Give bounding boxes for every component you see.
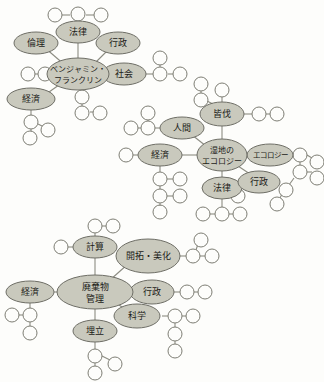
node-development-waste[interactable]: 開拓・美化 <box>116 239 180 273</box>
node-ellipse[interactable] <box>116 239 180 273</box>
node-science-waste[interactable]: 科学 <box>114 304 160 328</box>
leaf-circle[interactable] <box>23 131 37 145</box>
node-ellipse[interactable] <box>73 320 117 342</box>
node-ellipse[interactable] <box>200 102 244 126</box>
leaf-circle[interactable] <box>75 106 89 120</box>
leaf-circle[interactable] <box>173 67 187 81</box>
node-ellipse[interactable] <box>160 117 204 139</box>
leaf-circle[interactable] <box>71 7 85 21</box>
leaf-circle[interactable] <box>141 106 155 120</box>
leaf-circle[interactable] <box>93 106 107 120</box>
node-ellipse[interactable] <box>238 171 280 193</box>
leaf-circle[interactable] <box>153 189 167 203</box>
leaf-circle[interactable] <box>119 148 133 162</box>
leaf-circle[interactable] <box>270 197 284 211</box>
leaf-circle[interactable] <box>215 83 229 97</box>
node-ethics-franklin[interactable]: 倫理 <box>14 32 58 54</box>
leaf-circle[interactable] <box>94 8 108 22</box>
node-ellipse[interactable] <box>130 280 174 304</box>
leaf-circle[interactable] <box>194 93 208 107</box>
node-economy-wetland[interactable]: 経済 <box>138 144 182 166</box>
node-law-wetland[interactable]: 法律 <box>202 177 242 199</box>
leaf-circle[interactable] <box>153 67 167 81</box>
leaf-circle[interactable] <box>173 189 187 203</box>
node-center-benjamin-franklin[interactable]: ベンジャミン・ フランクリン <box>47 58 109 90</box>
leaf-circle[interactable] <box>310 155 324 169</box>
leaf-circle[interactable] <box>5 308 19 322</box>
node-ellipse[interactable] <box>247 144 293 166</box>
leaf-circle[interactable] <box>153 51 167 65</box>
leaf-circle[interactable] <box>186 249 200 263</box>
node-law-franklin[interactable]: 法律 <box>56 21 100 43</box>
leaf-circle[interactable] <box>23 308 37 322</box>
leaf-circle[interactable] <box>108 357 122 371</box>
leaf-circle[interactable] <box>198 285 212 299</box>
leaf-circle[interactable] <box>173 172 187 186</box>
node-center-wetland-ecology[interactable]: 湿地の エコロジー <box>197 139 247 171</box>
node-ellipse[interactable] <box>47 58 109 90</box>
leaf-circle[interactable] <box>88 366 102 380</box>
leaf-circle[interactable] <box>252 107 266 121</box>
branch-administration-waste <box>174 285 212 299</box>
leaf-circle[interactable] <box>141 121 155 135</box>
leaf-circle[interactable] <box>194 233 208 247</box>
node-landfill-waste[interactable]: 埋立 <box>73 320 117 342</box>
leaf-circle[interactable] <box>106 219 120 233</box>
leaf-circle[interactable] <box>270 107 284 121</box>
leaf-circle[interactable] <box>233 207 247 221</box>
node-ellipse[interactable] <box>7 88 55 110</box>
node-ellipse[interactable] <box>138 144 182 166</box>
node-ellipse[interactable] <box>202 177 242 199</box>
leaf-circle[interactable] <box>168 309 182 323</box>
leaf-circle[interactable] <box>194 77 208 91</box>
node-ellipse[interactable] <box>73 236 117 258</box>
leaf-circle[interactable] <box>124 121 138 135</box>
branch-human-wetland <box>124 106 160 135</box>
leaf-circle[interactable] <box>75 90 89 104</box>
leaf-circle[interactable] <box>180 285 194 299</box>
leaf-circle[interactable] <box>48 8 62 22</box>
node-calculation-waste[interactable]: 計算 <box>73 236 117 258</box>
node-economy-waste[interactable]: 経済 <box>6 281 54 303</box>
leaf-circle[interactable] <box>24 115 38 129</box>
leaf-circle[interactable] <box>41 123 55 137</box>
leaf-circle[interactable] <box>293 165 307 179</box>
node-ellipse[interactable] <box>197 139 247 171</box>
node-ellipse[interactable] <box>56 21 100 43</box>
node-economy-franklin[interactable]: 経済 <box>7 88 55 110</box>
node-ellipse[interactable] <box>114 304 160 328</box>
branch-science-waste <box>162 309 200 358</box>
node-human-wetland[interactable]: 人間 <box>160 117 204 139</box>
branch-economy-waste <box>5 303 37 340</box>
node-center-waste-management[interactable]: 廃棄物 管理 <box>57 275 133 309</box>
node-ellipse[interactable] <box>96 32 140 54</box>
node-ellipse[interactable] <box>57 275 133 309</box>
node-ecology-wetland[interactable]: エコロジー <box>247 144 293 166</box>
leaf-circle[interactable] <box>215 207 229 221</box>
leaf-circle[interactable] <box>196 207 210 221</box>
leaf-circle[interactable] <box>88 219 102 233</box>
node-administration-franklin[interactable]: 行政 <box>96 32 140 54</box>
branch-development-waste <box>180 233 219 263</box>
leaf-circle[interactable] <box>310 171 324 185</box>
leaf-circle[interactable] <box>168 344 182 358</box>
cluster-benjamin-franklin: 法律 倫理 行政 社会 経済 ベンジャミン・ フラ <box>7 7 187 145</box>
edge-landfill-leaf-right <box>102 356 110 360</box>
node-ellipse[interactable] <box>6 281 54 303</box>
leaf-circle[interactable] <box>21 67 35 81</box>
node-administration-waste[interactable]: 行政 <box>130 280 174 304</box>
node-clearcut-wetland[interactable]: 皆伐 <box>200 102 244 126</box>
mindmap-canvas: 法律 倫理 行政 社会 経済 ベンジャミン・ フラ <box>0 0 324 382</box>
node-administration-wetland[interactable]: 行政 <box>238 171 280 193</box>
leaf-circle[interactable] <box>54 240 68 254</box>
leaf-circle[interactable] <box>23 326 37 340</box>
leaf-circle[interactable] <box>279 183 293 197</box>
node-ellipse[interactable] <box>14 32 58 54</box>
leaf-circle[interactable] <box>88 349 102 363</box>
leaf-circle[interactable] <box>168 327 182 341</box>
leaf-circle[interactable] <box>205 249 219 263</box>
leaf-circle[interactable] <box>186 309 200 323</box>
leaf-circle[interactable] <box>293 148 307 162</box>
leaf-circle[interactable] <box>153 205 167 219</box>
leaf-circle[interactable] <box>153 172 167 186</box>
